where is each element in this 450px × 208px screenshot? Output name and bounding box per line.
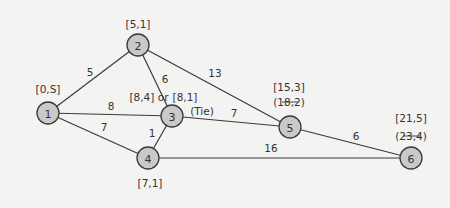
node-1: 1 — [37, 102, 59, 124]
node-1-label: 1 — [45, 108, 52, 121]
edge-1-4 — [48, 113, 148, 158]
edge-weights: 5 8 7 6 13 1 7 16 6 — [87, 66, 360, 154]
node-3-label: 3 — [169, 111, 176, 124]
node-3-annotation-a: [8,4] or — [130, 91, 170, 103]
node-5-final-label: [15,3] — [273, 81, 305, 93]
node-2-label: 2 — [135, 40, 142, 53]
node-4: 4 — [137, 147, 159, 169]
node-3-tie-note: (Tie) — [190, 105, 214, 117]
node-6-final-label: [21,5] — [395, 112, 427, 124]
node-6-label: 6 — [408, 153, 415, 166]
node-2-annotation: [5,1] — [126, 18, 151, 30]
node-6: 6 — [400, 147, 422, 169]
node-5: 5 — [279, 116, 301, 138]
weight-1-4: 7 — [101, 121, 108, 133]
weight-1-3: 8 — [108, 100, 115, 112]
weight-2-3: 6 — [162, 73, 169, 85]
nodes: 1 2 3 4 5 6 — [37, 34, 422, 169]
node-4-label: 4 — [145, 153, 152, 166]
weight-3-5: 7 — [231, 107, 238, 119]
node-2: 2 — [127, 34, 149, 56]
shortest-path-diagram: 5 8 7 6 13 1 7 16 6 1 2 3 — [0, 0, 450, 208]
node-3-annotation-b: [8,1] — [173, 91, 198, 103]
weight-2-5: 13 — [208, 67, 221, 79]
node-1-annotation: [0,S] — [36, 83, 61, 95]
node-5-label: 5 — [287, 122, 294, 135]
edge-1-2 — [48, 45, 138, 113]
node-3: 3 — [161, 105, 183, 127]
weight-5-6: 6 — [353, 130, 360, 142]
edge-5-6 — [290, 127, 411, 158]
node-4-annotation: [7,1] — [138, 177, 163, 189]
graph-canvas: 5 8 7 6 13 1 7 16 6 1 2 3 — [0, 0, 450, 208]
weight-4-6: 16 — [264, 142, 278, 154]
edge-1-3 — [48, 113, 172, 116]
weight-3-4: 1 — [149, 127, 156, 139]
weight-1-2: 5 — [87, 66, 94, 78]
node-annotations: [0,S] [5,1] [8,4] or [8,1] (Tie) [7,1] [… — [36, 18, 427, 189]
